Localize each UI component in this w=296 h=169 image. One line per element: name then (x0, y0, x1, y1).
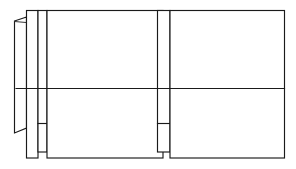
line-drawing-svg (0, 0, 296, 169)
right-panel (170, 11, 285, 159)
inner-stile (38, 11, 47, 153)
outer-stile (27, 11, 39, 159)
left-panel (47, 11, 163, 159)
center-mullion (158, 11, 171, 153)
edge-profile-sliver (15, 17, 27, 133)
drawing-canvas (0, 0, 296, 169)
